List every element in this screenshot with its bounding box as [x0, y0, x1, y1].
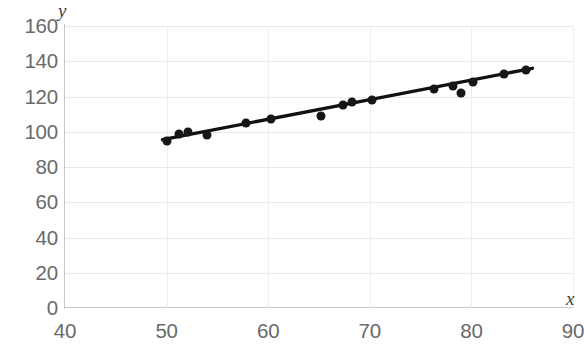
data-point	[367, 96, 376, 105]
y-tick-label: 0	[2, 296, 58, 320]
y-tick-label: 100	[2, 120, 58, 144]
x-tick-label: 90	[562, 319, 584, 343]
data-point	[457, 88, 466, 97]
x-tick-label: 50	[155, 319, 177, 343]
x-tick-label: 40	[54, 319, 76, 343]
data-point	[347, 97, 356, 106]
y-tick-label: 140	[2, 49, 58, 73]
y-tick-label: 120	[2, 85, 58, 109]
plot-area	[65, 26, 573, 308]
y-tick-label: 160	[2, 14, 58, 38]
x-tick-label: 70	[359, 319, 381, 343]
y-tick-label: 40	[2, 226, 58, 250]
data-point	[241, 118, 250, 127]
trendline	[65, 26, 573, 308]
data-point	[317, 111, 326, 120]
x-tick-label: 80	[460, 319, 482, 343]
y-tick-label: 80	[2, 155, 58, 179]
data-point	[267, 115, 276, 124]
x-axis-label: x	[566, 288, 574, 310]
data-point	[203, 131, 212, 140]
y-axis-label: y	[58, 0, 66, 22]
data-point	[499, 69, 508, 78]
y-tick-label: 60	[2, 190, 58, 214]
data-point	[429, 85, 438, 94]
y-axis-tick-labels: 020406080100120140160	[0, 0, 58, 355]
data-point	[469, 78, 478, 87]
data-point	[174, 129, 183, 138]
gridline-vertical	[573, 26, 574, 308]
x-tick-label: 60	[257, 319, 279, 343]
data-point	[183, 127, 192, 136]
y-tick-label: 20	[2, 261, 58, 285]
data-point	[449, 81, 458, 90]
data-point	[522, 66, 531, 75]
data-point	[162, 136, 171, 145]
